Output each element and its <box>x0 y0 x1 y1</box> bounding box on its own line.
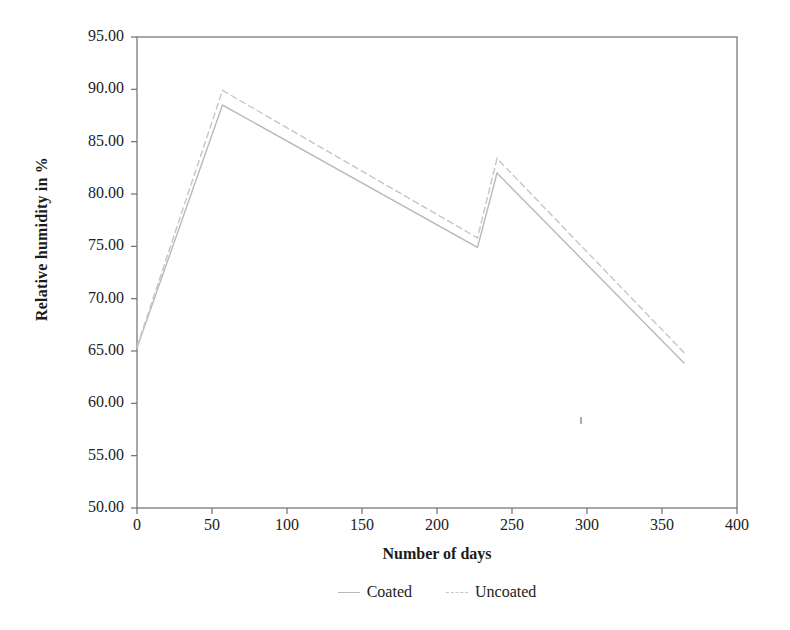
plot-canvas <box>0 0 790 630</box>
series-line-uncoated <box>137 90 685 353</box>
data-series-group <box>137 90 685 363</box>
legend-label-uncoated: Uncoated <box>475 583 536 601</box>
legend-line-icon-uncoated <box>446 592 468 593</box>
legend-line-icon-coated <box>338 592 360 593</box>
legend-label-coated: Coated <box>367 583 412 601</box>
legend-item-uncoated: Uncoated <box>446 583 536 601</box>
chart-figure: Relative humidity in % Number of days 50… <box>0 0 790 630</box>
scan-artifact-speck <box>580 417 582 424</box>
chart-legend: Coated Uncoated <box>137 583 737 601</box>
series-line-coated <box>137 105 685 364</box>
legend-item-coated: Coated <box>338 583 412 601</box>
